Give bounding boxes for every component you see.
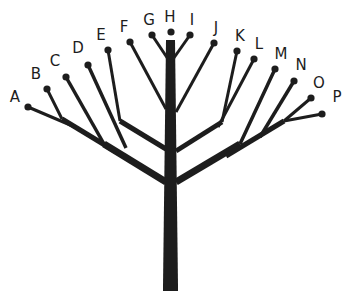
tip-label-d: D: [72, 39, 84, 57]
tip-dot-i: [186, 31, 193, 38]
tip-label-h: H: [164, 8, 175, 26]
branch-twig-J: [176, 43, 214, 112]
branch-twig-F: [130, 42, 166, 109]
branch-twig-M: [240, 69, 275, 144]
tip-label-c: C: [50, 52, 60, 70]
tip-label-p: P: [332, 88, 341, 106]
tip-label-j: J: [213, 19, 218, 37]
tree-trunk: [163, 40, 178, 291]
branch-right-upper-spine: [176, 122, 222, 151]
tip-dot-e: [104, 46, 111, 53]
branch-twig-K: [222, 51, 237, 122]
tip-dot-d: [84, 61, 91, 68]
tip-dot-p: [318, 110, 325, 117]
tip-dot-b: [43, 85, 50, 92]
tip-label-e: E: [96, 26, 105, 44]
tip-label-m: M: [275, 45, 288, 63]
tree-diagram-svg: ABCDEFGHIJKLMNOP: [0, 0, 352, 301]
tip-dot-h: [167, 28, 174, 35]
tip-dot-n: [290, 77, 297, 84]
tip-dot-f: [126, 38, 133, 45]
tip-dot-l: [250, 55, 257, 62]
tip-dot-g: [148, 31, 155, 38]
tip-label-n: N: [295, 56, 306, 74]
tip-label-i: I: [190, 11, 194, 29]
branch-right-sub-OP: [226, 121, 284, 156]
tip-dot-m: [271, 65, 278, 72]
tip-dot-a: [24, 103, 31, 110]
tree-diagram-canvas: ABCDEFGHIJKLMNOP: [0, 0, 352, 301]
tip-dot-j: [210, 39, 217, 46]
tip-label-a: A: [10, 88, 21, 106]
tip-label-g: G: [143, 11, 155, 29]
tip-label-l: L: [255, 35, 264, 53]
branch-twig-L: [218, 59, 254, 127]
tip-label-f: F: [120, 18, 129, 36]
tip-label-b: B: [31, 65, 41, 83]
tip-label-k: K: [235, 27, 246, 45]
tip-dot-o: [307, 94, 314, 101]
tip-dot-c: [62, 73, 69, 80]
branch-twig-A: [28, 107, 75, 127]
tip-dot-k: [233, 47, 240, 54]
branch-main-right: [176, 144, 240, 182]
tip-label-o: O: [313, 74, 325, 92]
branch-left-upper-spine: [120, 121, 166, 149]
